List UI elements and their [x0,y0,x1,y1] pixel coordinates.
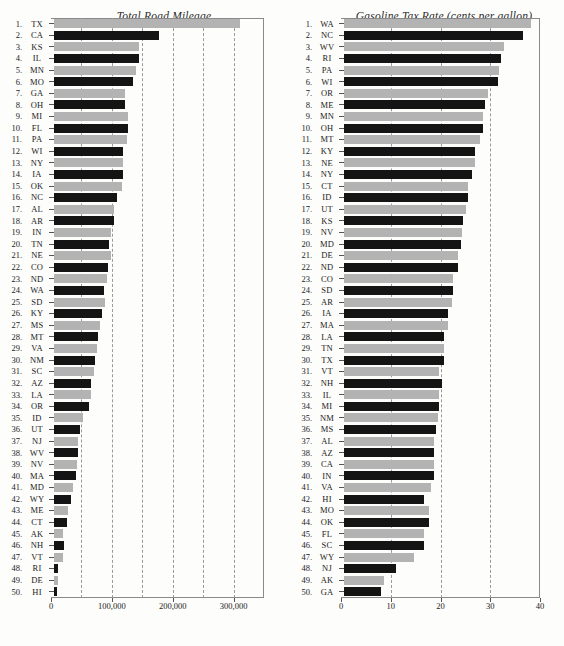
rank-label: 47. [290,553,315,562]
bar-row: 11.MT [290,134,564,146]
bar [344,587,381,596]
rank-label: 46. [290,541,315,550]
rank-label: 4. [290,54,315,63]
rank-label: 50. [0,588,25,597]
bar [54,42,139,51]
x-axis-tick-label: 30 [486,601,495,611]
bar-row: 27.MS [0,319,290,331]
bar [54,147,123,156]
state-label: TN [315,344,339,353]
bar [344,147,475,156]
bar [344,437,434,446]
state-label: IN [315,472,339,481]
state-label: UT [25,425,49,434]
rank-label: 12. [0,147,25,156]
state-label: TX [25,20,49,29]
bar-row: 25.SD [0,296,290,308]
state-label: HI [25,588,49,597]
rank-label: 23. [290,275,315,284]
state-label: IL [25,54,49,63]
x-axis-tick-label: 10 [387,601,396,611]
bar [54,367,94,376]
rank-label: 29. [0,344,25,353]
bar-row: 19.NV [290,227,564,239]
state-label: SD [315,286,339,295]
rank-label: 11. [290,135,315,144]
bar-track [54,30,290,42]
rank-label: 2. [290,31,315,40]
rank-label: 6. [0,78,25,87]
bar [54,66,136,75]
state-label: AL [315,437,339,446]
state-label: KS [25,43,49,52]
bar-rows-right: 1.WA2.NC3.WV4.RI5.PA6.WI7.OR8.ME9.MN10.O… [290,18,564,598]
state-label: SC [315,541,339,550]
state-label: CO [25,263,49,272]
rank-label: 8. [0,101,25,110]
bar [54,251,111,260]
rank-label: 25. [290,298,315,307]
bar [344,518,429,527]
rank-label: 46. [0,541,25,550]
rank-label: 1. [290,20,315,29]
bar-track [344,343,564,355]
rank-label: 15. [290,182,315,191]
bar [344,286,453,295]
bar-row: 22.CO [0,261,290,273]
bar-row: 37.NJ [0,435,290,447]
state-label: NV [25,460,49,469]
rank-label: 31. [290,367,315,376]
state-label: OH [25,101,49,110]
bar [344,321,448,330]
rank-label: 27. [0,321,25,330]
rank-label: 39. [0,460,25,469]
bar-row: 40.IN [290,470,564,482]
state-label: AL [25,205,49,214]
bar-row: 47.WY [290,551,564,563]
rank-label: 37. [0,437,25,446]
rank-label: 39. [290,460,315,469]
state-label: UT [315,205,339,214]
bar [344,251,458,260]
bar-track [344,401,564,413]
bar-row: 16.NC [0,192,290,204]
bar-track [54,482,290,494]
bar [344,263,458,272]
state-label: IA [25,170,49,179]
state-label: ID [25,414,49,423]
bar [54,541,64,550]
bar [344,356,444,365]
bar-track [344,238,564,250]
plot-right: 1.WA2.NC3.WV4.RI5.PA6.WI7.OR8.ME9.MN10.O… [290,18,564,616]
bar-track [54,285,290,297]
state-label: AZ [315,449,339,458]
bar-track [344,261,564,273]
bar [54,332,98,341]
rank-label: 32. [290,379,315,388]
bar [54,124,128,133]
bar [344,124,483,133]
rank-label: 45. [0,530,25,539]
bar-row: 7.OR [290,88,564,100]
rank-label: 7. [290,89,315,98]
bar-track [54,528,290,540]
bar [54,89,125,98]
bar-track [344,64,564,76]
bar-row: 4.IL [0,53,290,65]
state-label: OK [25,182,49,191]
rank-label: 18. [290,217,315,226]
bar-track [54,169,290,181]
state-label: MN [315,112,339,121]
bar-track [54,575,290,587]
bar [54,298,105,307]
bar-row: 21.NE [0,250,290,262]
state-label: FL [315,530,339,539]
rank-label: 5. [290,66,315,75]
bar-row: 14.IA [0,169,290,181]
state-label: HI [315,495,339,504]
bar-track [344,192,564,204]
bar-track [54,319,290,331]
bar [344,298,452,307]
bar-row: 31.VT [290,366,564,378]
bar-row: 48.RI [0,563,290,575]
